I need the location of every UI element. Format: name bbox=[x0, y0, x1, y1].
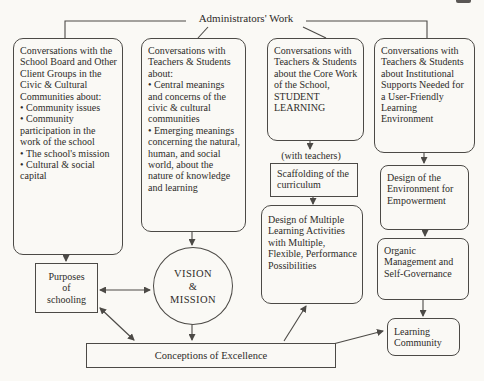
purposes-line-3: schooling bbox=[47, 294, 86, 305]
arrow-conceptions-to-learning-community bbox=[333, 331, 383, 344]
cropped-page-number bbox=[456, 0, 471, 3]
box-core-work-text: Conversations with Teachers & Students a… bbox=[274, 45, 358, 113]
bullet-community-issues: Community issues bbox=[20, 102, 117, 113]
box-teachers-meanings-intro: Conversations with Teachers & Students a… bbox=[148, 45, 240, 79]
bullet-schools-mission: The school's mission bbox=[20, 148, 117, 159]
box-school-board-conversations: Conversations with the School Board and … bbox=[13, 38, 123, 255]
arrow-conceptions-to-design-learning bbox=[284, 306, 306, 341]
bullet-emerging-meanings: Emerging meanings concerning the natural… bbox=[148, 125, 240, 193]
box-scaffolding-text: Scaffolding of the curriculum bbox=[277, 168, 352, 191]
box-design-learning-text: Design of Multiple Learning Activities w… bbox=[268, 214, 357, 271]
bullet-cultural-social-capital: Cultural & social capital bbox=[20, 159, 117, 182]
vision-line-1: VISION bbox=[174, 267, 212, 280]
box-design-environment: Design of the Environment for Empowermen… bbox=[380, 165, 469, 230]
connector-title-to-school-board bbox=[65, 21, 188, 38]
box-institutional-conversations: Conversations with Teachers & Students a… bbox=[374, 38, 475, 153]
purposes-line-1: Purposes bbox=[48, 271, 84, 282]
connector-title-to-teachers-meanings bbox=[198, 27, 208, 38]
box-conceptions-of-excellence: Conceptions of Excellence bbox=[86, 343, 336, 368]
bullet-central-meanings: Central meanings and concerns of the civ… bbox=[148, 79, 240, 125]
arrow-purposes-conceptions-bidirectional bbox=[100, 308, 134, 340]
diagram-title: Administrators' Work bbox=[186, 12, 306, 24]
box-core-work-conversations: Conversations with Teachers & Students a… bbox=[267, 38, 364, 141]
connector-title-to-institutional bbox=[304, 21, 427, 38]
box-teachers-meanings-conversations: Conversations with Teachers & Students a… bbox=[141, 38, 246, 232]
purposes-line-2: of bbox=[62, 282, 70, 293]
box-school-board-bullet-list: Community issues Community participation… bbox=[20, 102, 117, 182]
administrators-work-diagram: Administrators' Work Conversations with … bbox=[0, 0, 484, 381]
vision-mission-circle: VISION & MISSION bbox=[153, 247, 233, 325]
box-teachers-meanings-bullet-list: Central meanings and concerns of the civ… bbox=[148, 79, 240, 193]
bullet-community-participation: Community participation in the work of t… bbox=[20, 113, 117, 147]
box-design-learning-activities: Design of Multiple Learning Activities w… bbox=[261, 205, 363, 304]
box-learning-community: Learning Community bbox=[387, 318, 460, 356]
box-scaffolding-curriculum: Scaffolding of the curriculum bbox=[270, 163, 358, 197]
box-institutional-text: Conversations with Teachers & Students a… bbox=[381, 45, 469, 125]
box-school-board-intro: Conversations with the School Board and … bbox=[20, 45, 117, 102]
vision-line-3: MISSION bbox=[170, 293, 216, 306]
vision-line-2: & bbox=[189, 280, 198, 293]
box-organic-management-text: Organic Management and Self-Governance bbox=[384, 245, 463, 279]
connector-title-to-core-work bbox=[303, 27, 326, 38]
box-learning-community-text: Learning Community bbox=[394, 326, 454, 349]
box-design-environment-text: Design of the Environment for Empowermen… bbox=[387, 172, 463, 206]
box-purposes-of-schooling: Purposes of schooling bbox=[35, 263, 98, 313]
with-teachers-label: (with teachers) bbox=[263, 150, 359, 161]
conceptions-text: Conceptions of Excellence bbox=[155, 350, 268, 361]
box-organic-management: Organic Management and Self-Governance bbox=[377, 238, 469, 300]
